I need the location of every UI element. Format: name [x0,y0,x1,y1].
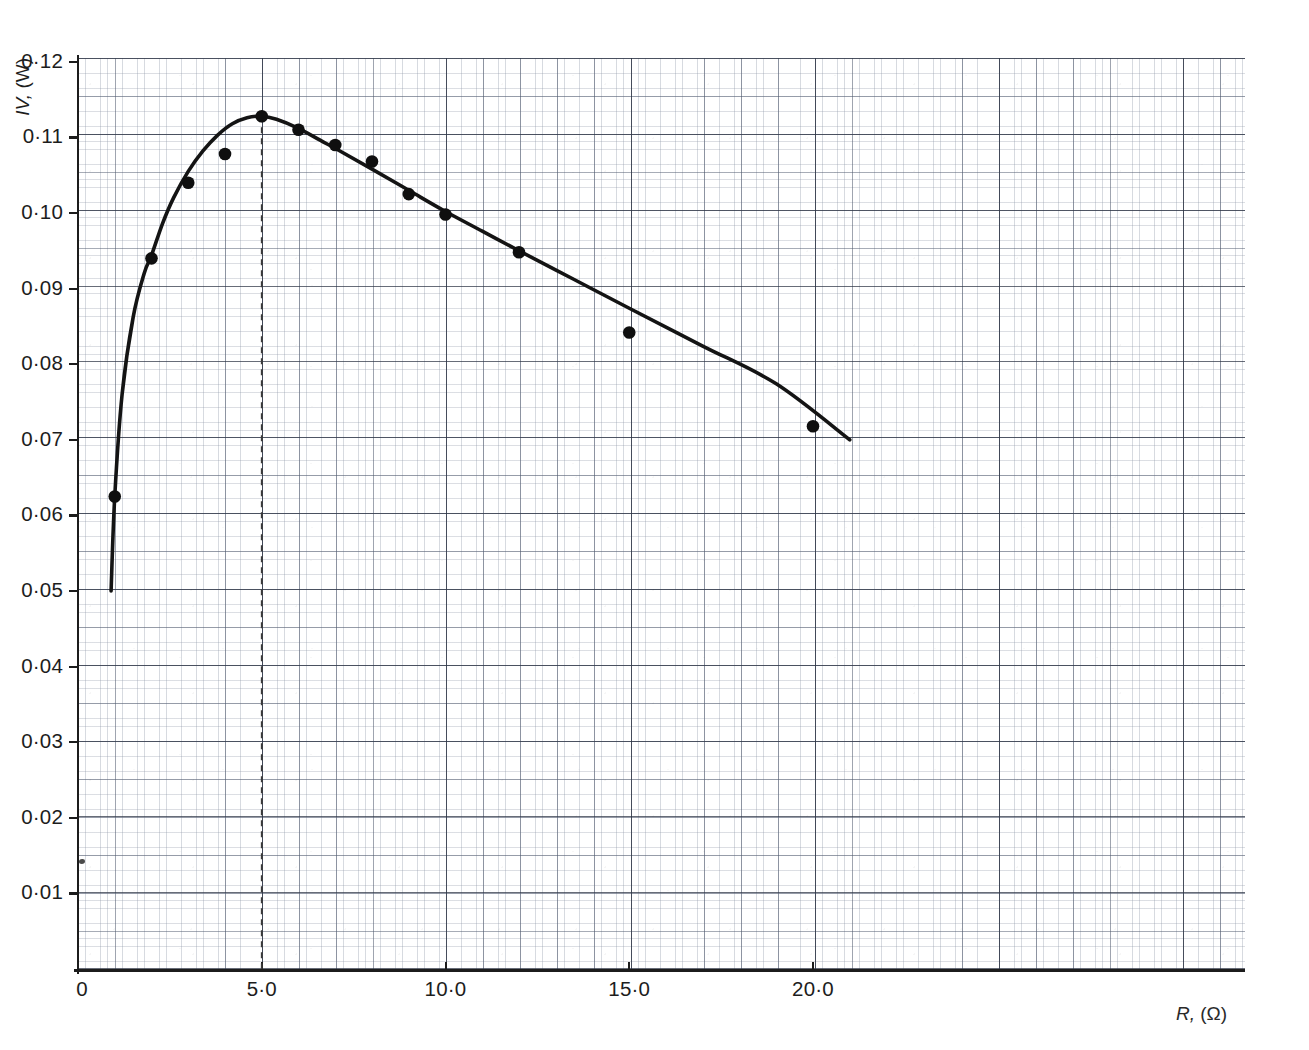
y-tick-mark [69,212,78,214]
y-tick-mark [69,61,78,63]
x-tick-mark [812,962,814,971]
y-tick-mark [69,439,78,441]
x-axis-line [74,969,1248,972]
x-tick-mark [261,962,263,971]
y-axis-title: IV, (W) [12,58,34,116]
y-axis-unit: (W) [12,58,33,89]
y-tick-label: 0·08 [21,351,63,375]
grid-major [78,58,1245,971]
x-tick-mark [445,962,447,971]
right-margin [1245,0,1309,1050]
y-tick-label: 0·11 [23,124,63,148]
y-tick-mark [69,288,78,290]
y-tick-label: 0·01 [21,880,63,904]
y-tick-mark [69,514,78,516]
graph-page: 0·010·020·030·040·050·060·070·080·090·10… [0,0,1309,1050]
y-tick-label: 0·03 [21,729,63,753]
x-tick-label: 20·0 [792,977,834,1001]
x-tick-label: 15·0 [608,977,650,1001]
x-axis-title-symbol: R, [1176,1003,1195,1024]
y-tick-label: 0·02 [21,805,63,829]
x-axis-unit: (Ω) [1200,1003,1227,1024]
y-tick-mark [69,136,78,138]
x-tick-mark [628,962,630,971]
y-tick-mark [69,892,78,894]
x-tick-label: 5·0 [247,977,277,1001]
y-tick-label: 0·10 [21,200,63,224]
y-tick-label: 0·06 [21,502,63,526]
y-tick-label: 0·05 [21,578,63,602]
y-tick-mark [69,590,78,592]
plot-area [78,58,1245,971]
y-tick-label: 0·04 [21,654,63,678]
power-vs-resistance-figure: 0·010·020·030·040·050·060·070·080·090·10… [0,0,1309,1050]
y-tick-mark [69,363,78,365]
y-tick-mark [69,741,78,743]
y-tick-mark [69,817,78,819]
y-axis-title-symbol: IV, [12,94,33,116]
y-tick-mark [69,666,78,668]
y-tick-label: 0·09 [21,276,63,300]
x-tick-label: 0 [76,977,88,1001]
x-axis-title: R, (Ω) [1176,1003,1227,1025]
x-tick-label: 10·0 [425,977,467,1001]
y-tick-label: 0·07 [21,427,63,451]
